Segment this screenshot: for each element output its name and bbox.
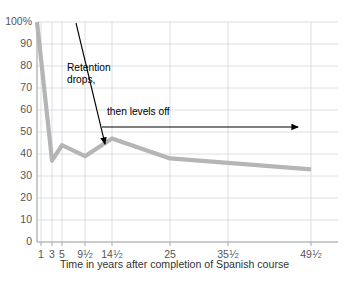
retention-line-chart: 100%9080706050403020100 13591⁄2141⁄22535… bbox=[0, 0, 349, 281]
gridlines bbox=[37, 22, 338, 242]
annotation-then-levels-off: then levels off bbox=[107, 106, 170, 118]
y-tick-label: 100% bbox=[5, 16, 32, 27]
y-tick-label: 40 bbox=[20, 148, 32, 159]
y-tick-label: 0 bbox=[26, 236, 32, 247]
y-tick-label: 90 bbox=[20, 38, 32, 49]
plot-canvas bbox=[0, 0, 349, 281]
y-tick-label: 80 bbox=[20, 60, 32, 71]
y-tick-label: 10 bbox=[20, 214, 32, 225]
y-tick-label: 60 bbox=[20, 104, 32, 115]
y-tick-label: 20 bbox=[20, 192, 32, 203]
annotation-retention-line2: drops, bbox=[67, 74, 111, 86]
x-axis-title: Time in years after completion of Spanis… bbox=[0, 258, 349, 270]
y-tick-label: 70 bbox=[20, 82, 32, 93]
annotation-retention-drops: Retention drops, bbox=[67, 62, 111, 85]
y-tick-label: 30 bbox=[20, 170, 32, 181]
y-tick-label: 50 bbox=[20, 126, 32, 137]
annotation-retention-line1: Retention bbox=[67, 62, 111, 74]
x-tick-marks bbox=[41, 242, 311, 246]
